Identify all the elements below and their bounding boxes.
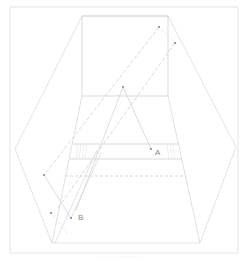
geometry-diagram: A B <box>0 0 243 261</box>
label-B: B <box>78 213 83 222</box>
point-low-left <box>50 212 52 214</box>
B-connector-line <box>71 153 101 218</box>
point-apex <box>122 86 124 88</box>
point-B <box>70 217 72 219</box>
point-top-2 <box>174 42 176 44</box>
trapezoid-right-edge <box>168 96 200 243</box>
inner-square <box>82 16 168 96</box>
low-left-down-line <box>51 213 67 233</box>
point-top-1 <box>158 26 160 28</box>
point-A <box>150 148 152 150</box>
point-left <box>43 174 45 176</box>
left-point-down-line <box>44 175 71 218</box>
top-points-connector <box>159 27 175 43</box>
label-A: A <box>155 148 161 157</box>
figure-caption: · · · · · · · · · · · · <box>0 253 243 259</box>
hexagon-outline <box>15 16 236 243</box>
outer-frame <box>10 7 238 253</box>
diagonal-dashed-2 <box>58 43 175 208</box>
diagonal-dashed-1 <box>44 27 159 175</box>
